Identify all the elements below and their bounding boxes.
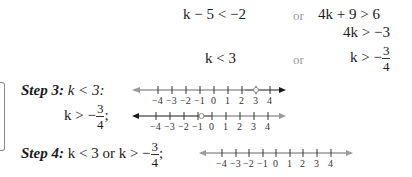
svg-text:4: 4 <box>265 121 270 132</box>
svg-text:−1: −1 <box>194 95 205 106</box>
number-line-2: −4−3−2−101234 <box>130 108 290 132</box>
left-arrow-icon <box>132 113 139 119</box>
left-arrow-icon <box>132 87 140 93</box>
numerator: 3 <box>151 140 160 155</box>
svg-text:−1: −1 <box>257 158 268 169</box>
right-arrow-icon <box>279 87 286 93</box>
svg-text:−2: −2 <box>178 121 189 132</box>
svg-text:4: 4 <box>267 95 272 106</box>
svg-text:2: 2 <box>237 121 242 132</box>
step3-line1-text: k < 3: <box>68 82 105 98</box>
svg-text:3: 3 <box>251 121 256 132</box>
semicolon: ; <box>159 145 163 161</box>
or-label-1: or <box>293 8 304 24</box>
svg-text:3: 3 <box>253 95 258 106</box>
denominator: 4 <box>382 59 391 73</box>
svg-text:−1: −1 <box>192 121 203 132</box>
svg-text:−4: −4 <box>152 95 163 106</box>
box-border <box>0 82 5 151</box>
step3-label: Step 3: <box>21 82 64 98</box>
svg-text:4: 4 <box>328 158 333 169</box>
step3-line2: k > −34; <box>64 102 109 131</box>
step3-line2-prefix: k > − <box>64 107 96 123</box>
svg-text:1: 1 <box>287 158 292 169</box>
svg-text:−2: −2 <box>243 158 254 169</box>
svg-text:−3: −3 <box>230 158 241 169</box>
svg-text:0: 0 <box>209 121 214 132</box>
number-line-3: −4−3−2−101234 <box>197 145 357 169</box>
right-arrow-icon <box>279 113 286 119</box>
svg-text:−2: −2 <box>180 95 191 106</box>
semicolon: ; <box>104 107 108 123</box>
svg-text:−4: −4 <box>150 121 161 132</box>
svg-text:0: 0 <box>211 95 216 106</box>
step4-text: k < 3 or k > − <box>68 145 151 161</box>
denominator: 4 <box>151 155 160 169</box>
svg-text:−3: −3 <box>164 121 175 132</box>
svg-text:1: 1 <box>225 95 230 106</box>
step4-label: Step 4: <box>21 145 64 161</box>
equation-left-3: k < 3 <box>205 50 236 67</box>
fraction: 34 <box>382 44 391 73</box>
left-arrow-icon <box>199 150 206 156</box>
numerator: 3 <box>382 44 391 59</box>
equation-right-3-prefix: k > − <box>350 49 382 65</box>
svg-text:−3: −3 <box>166 95 177 106</box>
equation-right-2: 4k > −3 <box>343 24 390 41</box>
open-circle-icon <box>254 88 259 93</box>
step4-line: Step 4: k < 3 or k > −34; <box>21 140 163 169</box>
svg-text:2: 2 <box>239 95 244 106</box>
number-line-1: −4−3−2−101234 <box>130 82 290 106</box>
svg-text:3: 3 <box>314 158 319 169</box>
right-arrow-icon <box>346 150 353 156</box>
svg-text:0: 0 <box>273 158 278 169</box>
svg-text:−4: −4 <box>216 158 227 169</box>
equation-right-3: k > −34 <box>350 44 390 73</box>
svg-text:2: 2 <box>300 158 305 169</box>
or-label-3: or <box>293 52 304 68</box>
equation-left-1: k − 5 < −2 <box>183 6 246 23</box>
open-circle-icon <box>199 114 204 119</box>
equation-right-1: 4k + 9 > 6 <box>318 6 380 23</box>
svg-text:1: 1 <box>223 121 228 132</box>
fraction: 34 <box>151 140 160 169</box>
step3-line1: Step 3: k < 3: <box>21 82 104 99</box>
